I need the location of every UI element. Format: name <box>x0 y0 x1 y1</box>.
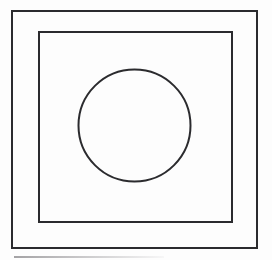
drawing-canvas: Nested squares with inscribed circle A l… <box>0 0 272 260</box>
figure-svg: Nested squares with inscribed circle A l… <box>0 0 272 260</box>
